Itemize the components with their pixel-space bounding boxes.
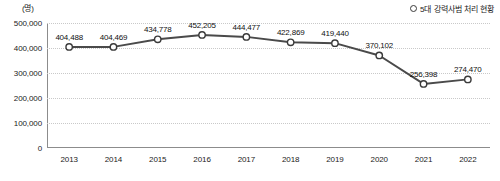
gridline (47, 23, 490, 24)
data-point-label: 370,102 (365, 41, 393, 50)
x-axis-tick-label: 2019 (326, 155, 343, 164)
x-axis-tick-label: 2013 (60, 155, 77, 164)
x-axis-tick-label: 2014 (105, 155, 122, 164)
data-point-label: 404,469 (100, 33, 128, 42)
x-axis-tick-label: 2020 (371, 155, 388, 164)
chart-legend: 5대 강력사범 처리 현황 (410, 3, 494, 14)
x-axis-line (47, 147, 490, 148)
legend-label: 5대 강력사범 처리 현황 (420, 3, 494, 14)
x-axis-tick-label: 2016 (193, 155, 210, 164)
data-point-label: 434,778 (144, 25, 172, 34)
data-point-label: 444,477 (233, 23, 261, 32)
y-axis-unit-label: (명) (22, 2, 34, 13)
y-axis-line (47, 23, 48, 148)
data-point-label: 274,470 (454, 65, 482, 74)
y-axis-tick-label: 400,000 (14, 44, 42, 53)
data-point-label: 452,205 (188, 21, 216, 30)
x-axis-tick-label: 2017 (238, 155, 255, 164)
legend-marker-icon (410, 5, 417, 12)
x-axis-tick-label: 2018 (282, 155, 299, 164)
gridline (47, 48, 490, 49)
gridline (47, 98, 490, 99)
data-point-label: 256,398 (410, 70, 438, 79)
data-point-label: 419,440 (321, 29, 349, 38)
x-axis-tick-label: 2015 (149, 155, 166, 164)
y-axis-tick-label: 200,000 (14, 94, 42, 103)
y-axis-tick-label: 0 (38, 144, 42, 153)
x-axis-tick-label: 2022 (459, 155, 476, 164)
x-axis-tick-label: 2021 (415, 155, 432, 164)
gridline (47, 123, 490, 124)
y-axis-tick-label: 500,000 (14, 19, 42, 28)
line-chart: (명) 5대 강력사범 처리 현황 0100,000200,000300,000… (0, 0, 500, 181)
data-point-label: 422,869 (277, 28, 305, 37)
data-point-label: 404,488 (55, 33, 83, 42)
y-axis-tick-label: 100,000 (14, 119, 42, 128)
y-axis-tick-label: 300,000 (14, 69, 42, 78)
